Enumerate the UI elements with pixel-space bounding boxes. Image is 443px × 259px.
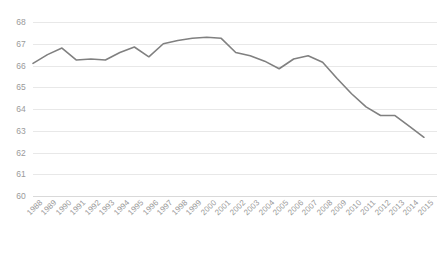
y-axis-tick-label: 60	[16, 191, 26, 201]
x-axis: 1988198919901991199219931994199519961997…	[33, 198, 437, 258]
y-axis-tick-label: 65	[16, 82, 26, 92]
y-axis-tick-label: 62	[16, 148, 26, 158]
y-axis-tick-label: 67	[16, 39, 26, 49]
y-axis-tick-label: 66	[16, 61, 26, 71]
plot-area	[33, 22, 437, 196]
y-axis: 606162636465666768	[0, 22, 30, 196]
x-axis-tick-label: 2015	[416, 198, 435, 217]
data-series-path	[33, 37, 424, 137]
y-axis-tick-label: 64	[16, 104, 26, 114]
y-axis-tick-label: 63	[16, 126, 26, 136]
y-axis-tick-label: 68	[16, 17, 26, 27]
x-axis-tick-label: 2011	[359, 198, 378, 217]
x-axis-line	[33, 196, 437, 197]
series-line	[33, 22, 437, 196]
y-axis-tick-label: 61	[16, 169, 26, 179]
line-chart: 606162636465666768 198819891990199119921…	[0, 0, 443, 259]
